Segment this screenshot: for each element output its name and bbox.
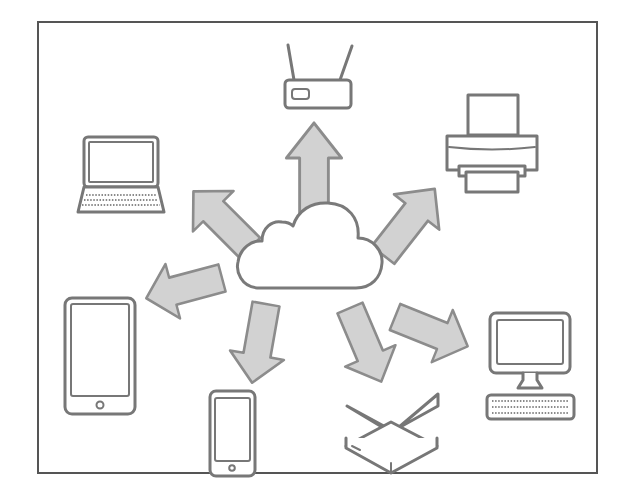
smartphone-icon xyxy=(210,391,255,476)
laptop-icon xyxy=(78,137,164,212)
tablet-icon xyxy=(65,298,135,414)
cloud-devices-diagram xyxy=(0,0,626,496)
desktop-icon xyxy=(487,313,574,419)
